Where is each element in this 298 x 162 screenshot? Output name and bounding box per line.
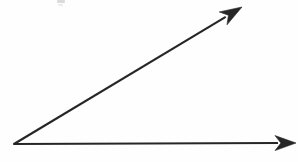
- diagonal-ray-arrowhead-icon: [219, 7, 242, 25]
- horizontal-ray-line: [14, 143, 278, 144]
- angle-diagram-canvas: [0, 0, 298, 162]
- horizontal-ray-arrowhead-icon: [275, 136, 296, 151]
- diagonal-ray-line: [14, 17, 226, 144]
- angle-diagram-figure: [0, 0, 298, 162]
- angle-vertex-point: [13, 143, 15, 145]
